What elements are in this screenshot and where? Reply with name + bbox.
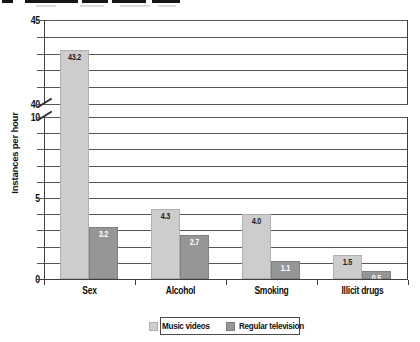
x-axis-line: [37, 279, 408, 280]
clipped-text-fragment: [80, 5, 104, 7]
bar-regular-television-sex: 3.2: [89, 227, 118, 279]
bar-value-label: 0.5: [365, 273, 388, 283]
gridline-40: [37, 104, 408, 105]
clipped-text-fragment: [36, 5, 56, 7]
category-label-alcohol: Alcohol: [142, 285, 219, 296]
legend-item-regular-television: Regular television: [226, 321, 311, 331]
chart-figure: 0510404543.23.2Sex4.32.7Alcohol4.01.1Smo…: [0, 0, 420, 342]
bar-value-label: 2.7: [183, 237, 206, 247]
x-axis-tick: [226, 280, 227, 285]
legend-label: Music videos: [162, 321, 210, 331]
y-axis-title: Instances per hour: [9, 112, 20, 193]
legend-item-music-videos: Music videos: [149, 321, 215, 331]
y-tick-label-45: 45: [5, 15, 40, 26]
bar-value-label: 4.0: [245, 216, 268, 226]
category-label-sex: Sex: [51, 285, 128, 296]
clipped-text-fragment: [82, 0, 108, 3]
y-tick-label-0: 0: [5, 274, 40, 285]
plot-right-border: [407, 117, 408, 279]
gridline-43: [37, 54, 408, 55]
legend: Music videos Regular television: [160, 317, 300, 335]
bar-value-label: 1.1: [274, 263, 297, 273]
category-label-illicit-drugs: Illicit drugs: [324, 285, 401, 296]
clipped-text-fragment: [2, 0, 13, 3]
gridline-4: [37, 214, 408, 215]
gridline-7: [37, 166, 408, 167]
bar-value-label: 1.5: [336, 257, 359, 267]
gridline-41: [37, 87, 408, 88]
x-axis-tick: [44, 280, 45, 285]
category-label-smoking: Smoking: [233, 285, 310, 296]
gridline-44: [37, 37, 408, 38]
clipped-text-fragment: [152, 0, 180, 3]
music-videos-swatch: [149, 322, 158, 331]
clipped-text-fragment: [25, 0, 78, 3]
bar-music-videos-smoking: 4.0: [242, 214, 271, 279]
bar-value-label: 4.3: [154, 211, 177, 221]
bar-music-videos-sex: 43.2: [60, 50, 89, 279]
bar-music-videos-illicit-drugs: 1.5: [333, 255, 362, 279]
gridline-9: [37, 133, 408, 134]
bar-value-label: 3.2: [92, 229, 115, 239]
y-axis-line: [44, 117, 45, 279]
regular-television-swatch: [226, 322, 235, 331]
clipped-text-fragment: [112, 0, 146, 3]
y-tick-label-5: 5: [5, 193, 40, 204]
y-axis-line: [44, 20, 45, 104]
clipped-text-fragment: [158, 5, 176, 7]
gridline-10: [37, 117, 408, 118]
x-axis-tick: [135, 280, 136, 285]
clipped-text-fragment: [120, 5, 150, 7]
bar-regular-television-alcohol: 2.7: [180, 235, 209, 279]
gridline-8: [37, 149, 408, 150]
bar-value-label: 43.2: [63, 52, 86, 62]
y-tick-label-40: 40: [5, 99, 40, 110]
plot-right-border: [407, 20, 408, 104]
legend-label: Regular television: [239, 321, 304, 331]
bar-music-videos-alcohol: 4.3: [151, 209, 180, 279]
bar-regular-television-illicit-drugs: 0.5: [362, 271, 391, 279]
gridline-42: [37, 70, 408, 71]
bar-regular-television-smoking: 1.1: [271, 261, 300, 279]
gridline-5: [37, 198, 408, 199]
gridline-45: [37, 20, 408, 21]
x-axis-tick: [317, 280, 318, 285]
x-axis-tick: [408, 280, 409, 285]
gridline-6: [37, 182, 408, 183]
